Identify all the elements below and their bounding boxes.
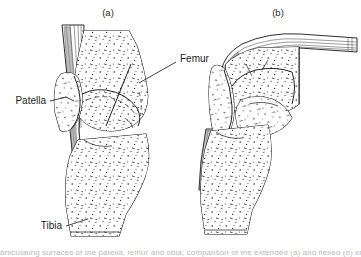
figure-canvas: (a) xyxy=(0,0,361,257)
panel-a-label: (a) xyxy=(102,7,114,18)
label-patella: Patella xyxy=(15,95,46,106)
figure-caption-text: articulating surfaces of the patella, fe… xyxy=(0,251,361,257)
bone-tibia-a xyxy=(60,130,158,242)
panel-a: (a) xyxy=(15,7,209,242)
label-femur: Femur xyxy=(180,53,210,64)
panel-b-label: (b) xyxy=(272,7,284,18)
label-tibia: Tibia xyxy=(41,220,63,231)
figure-caption-clipped: articulating surfaces of the patella, fe… xyxy=(0,251,361,257)
knee-joint-figure: (a) xyxy=(0,0,361,257)
panel-b: (b) xyxy=(195,7,357,238)
